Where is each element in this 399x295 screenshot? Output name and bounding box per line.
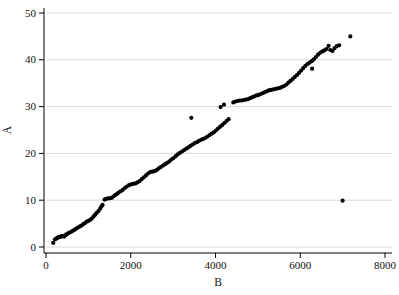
y-tick-label: 0 bbox=[31, 241, 37, 253]
scatter-chart: 0102030405002000400060008000 A B bbox=[0, 0, 399, 295]
data-point bbox=[219, 105, 223, 109]
data-point bbox=[337, 43, 341, 47]
y-axis-title: A bbox=[1, 125, 13, 134]
y-tick-label: 30 bbox=[25, 100, 37, 112]
x-tick-label: 6000 bbox=[289, 259, 312, 271]
data-point bbox=[327, 44, 331, 48]
data-point bbox=[348, 34, 352, 38]
y-tick-label: 10 bbox=[25, 194, 37, 206]
data-point bbox=[189, 116, 193, 120]
y-tick-label: 20 bbox=[25, 147, 37, 159]
y-tick-label: 40 bbox=[25, 53, 37, 65]
x-axis-title: B bbox=[214, 276, 222, 288]
y-tick-label: 50 bbox=[25, 7, 37, 19]
data-points bbox=[51, 34, 352, 245]
x-tick-label: 8000 bbox=[374, 259, 397, 271]
data-point bbox=[101, 203, 105, 207]
data-point bbox=[341, 199, 345, 203]
plot-canvas: 0102030405002000400060008000 A B bbox=[0, 0, 399, 295]
x-tick-label: 4000 bbox=[205, 259, 228, 271]
x-tick-label: 0 bbox=[43, 259, 49, 271]
data-point bbox=[222, 103, 226, 107]
data-point bbox=[227, 117, 231, 121]
x-tick-label: 2000 bbox=[120, 259, 143, 271]
data-point bbox=[310, 67, 314, 71]
